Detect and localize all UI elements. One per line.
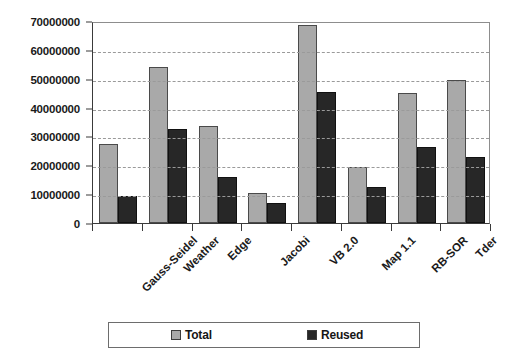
bar-group (242, 23, 292, 223)
bar-reused (367, 187, 386, 223)
bar-total (447, 80, 466, 223)
gridline (93, 110, 489, 111)
x-axis-tick-mark (142, 224, 143, 231)
y-axis-tick-label: 70000000 (30, 16, 80, 28)
x-axis-category-label: RB-SOR (430, 234, 471, 275)
bar-total (298, 25, 317, 223)
bar-group (342, 23, 392, 223)
legend-entry-total: Total (171, 328, 212, 342)
legend-label-reused: Reused (321, 328, 363, 342)
y-axis-tick-label: 20000000 (30, 160, 80, 172)
bars-layer (93, 23, 489, 223)
gridline (93, 196, 489, 197)
bar-reused (417, 147, 436, 223)
bar-chart: 0100000002000000030000000400000005000000… (0, 0, 523, 358)
chart-legend: Total Reused (108, 322, 420, 348)
x-axis-category-label: Map 1.1 (379, 234, 417, 272)
y-axis-tick-label: 30000000 (30, 131, 80, 143)
bar-reused (267, 203, 286, 223)
plot-area (92, 22, 490, 224)
gridline (93, 167, 489, 168)
gridline (93, 81, 489, 82)
y-axis-tick-label: 50000000 (30, 74, 80, 86)
x-axis-tick-mark (192, 224, 193, 231)
bar-reused (218, 177, 237, 223)
bar-group (93, 23, 143, 223)
bar-reused (317, 92, 336, 223)
gridline (93, 138, 489, 139)
x-axis-category-label: Tder (473, 234, 499, 260)
bar-total (398, 93, 417, 223)
x-axis-tick-mark (241, 224, 242, 231)
bar-group (143, 23, 193, 223)
x-axis-category-label: Edge (226, 234, 254, 262)
x-axis-tick-mark (92, 224, 93, 231)
bar-reused (118, 196, 137, 223)
bar-group (392, 23, 442, 223)
bar-total (248, 193, 267, 223)
y-axis-tick-label: 0 (74, 218, 80, 230)
bar-reused (168, 129, 187, 223)
bar-group (292, 23, 342, 223)
x-axis-category-label: VB 2.0 (327, 234, 360, 267)
bar-total (149, 67, 168, 223)
legend-swatch-reused-icon (307, 330, 317, 340)
y-axis-tick-label: 60000000 (30, 45, 80, 57)
gridline (93, 52, 489, 53)
x-axis-tick-mark (391, 224, 392, 231)
x-axis-tick-mark (291, 224, 292, 231)
legend-label-total: Total (185, 328, 212, 342)
x-axis-tick-mark (440, 224, 441, 231)
x-axis-tick-mark (341, 224, 342, 231)
legend-swatch-total-icon (171, 330, 181, 340)
y-axis: 0100000002000000030000000400000005000000… (0, 0, 88, 246)
bar-group (441, 23, 491, 223)
x-axis-tick-mark (490, 224, 491, 231)
bar-total (199, 126, 218, 223)
bar-total (99, 144, 118, 223)
y-axis-tick-label: 10000000 (30, 189, 80, 201)
y-axis-tick-label: 40000000 (30, 103, 80, 115)
legend-entry-reused: Reused (307, 328, 363, 342)
bar-group (193, 23, 243, 223)
x-axis-category-label: Jacobi (278, 234, 312, 268)
